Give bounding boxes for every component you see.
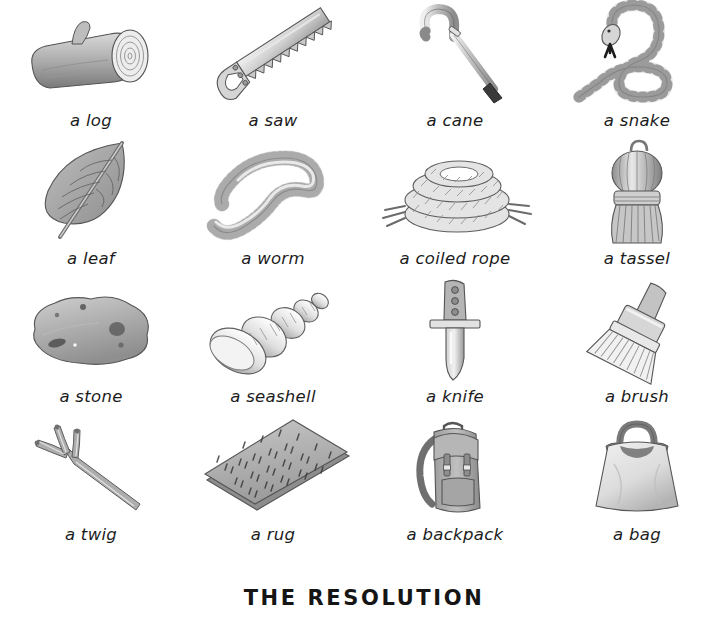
saw-illustration: [182, 0, 364, 108]
worm-illustration: [182, 138, 364, 246]
item-label: a backpack: [407, 522, 504, 552]
item-label: a rug: [251, 522, 296, 552]
leaf-illustration: [0, 138, 182, 246]
item-label: a stone: [59, 384, 122, 414]
log-illustration: [0, 0, 182, 108]
brush-illustration: [546, 276, 728, 384]
grid-cell-stone: a stone: [0, 276, 182, 414]
item-label: a cane: [427, 108, 484, 138]
grid-cell-bag: a bag: [546, 414, 728, 552]
cane-illustration: [364, 0, 546, 108]
grid-cell-seashell: a seashell: [182, 276, 364, 414]
stone-illustration: [0, 276, 182, 384]
bag-illustration: [546, 414, 728, 522]
item-label: a log: [70, 108, 112, 138]
item-label: a snake: [604, 108, 670, 138]
grid-cell-rug: a rug: [182, 414, 364, 552]
grid-cell-twig: a twig: [0, 414, 182, 552]
item-label: a seashell: [230, 384, 316, 414]
grid-cell-saw: a saw: [182, 0, 364, 138]
grid-cell-worm: a worm: [182, 138, 364, 276]
item-label: a knife: [426, 384, 484, 414]
item-label: a tassel: [604, 246, 670, 276]
snake-illustration: [546, 0, 728, 108]
item-label: a brush: [605, 384, 669, 414]
item-label: a worm: [241, 246, 305, 276]
twig-illustration: [0, 414, 182, 522]
item-label: a bag: [613, 522, 661, 552]
backpack-illustration: [364, 414, 546, 522]
item-label: a saw: [248, 108, 297, 138]
grid-cell-cane: a cane: [364, 0, 546, 138]
item-label: a coiled rope: [400, 246, 511, 276]
grid-cell-leaf: a leaf: [0, 138, 182, 276]
grid-cell-tassel: a tassel: [546, 138, 728, 276]
grid-cell-brush: a brush: [546, 276, 728, 414]
grid-cell-coiled-rope: a coiled rope: [364, 138, 546, 276]
grid-cell-snake: a snake: [546, 0, 728, 138]
grid-cell-log: a log: [0, 0, 182, 138]
item-label: a twig: [65, 522, 117, 552]
illustration-grid: a log: [0, 0, 728, 575]
seashell-illustration: [182, 276, 364, 384]
tassel-illustration: [546, 138, 728, 246]
grid-cell-knife: a knife: [364, 276, 546, 414]
knife-illustration: [364, 276, 546, 384]
grid-cell-backpack: a backpack: [364, 414, 546, 552]
rug-illustration: [182, 414, 364, 522]
illustration-sheet: a log: [0, 0, 728, 630]
page-title: THE RESOLUTION: [0, 586, 728, 610]
coiled-rope-illustration: [364, 138, 546, 246]
item-label: a leaf: [67, 246, 115, 276]
